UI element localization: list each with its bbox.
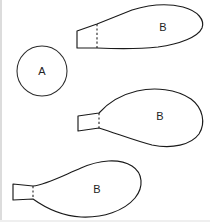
balloon-middle-label: B — [156, 110, 163, 122]
circle-label: A — [38, 65, 46, 77]
balloon-middle-outline — [78, 89, 203, 146]
balloon-bottom-label: B — [93, 183, 100, 195]
shape-balloon-bottom: B — [13, 161, 141, 217]
shape-circle-a: A — [17, 46, 67, 96]
balloon-top-outline — [77, 5, 203, 49]
diagram-canvas: A B B B — [0, 0, 210, 222]
shape-balloon-top: B — [77, 5, 203, 49]
balloon-top-label: B — [159, 21, 166, 33]
balloon-bottom-outline — [13, 161, 141, 217]
shape-balloon-middle: B — [78, 89, 203, 146]
shapes-illustration: A B B B — [0, 0, 210, 222]
